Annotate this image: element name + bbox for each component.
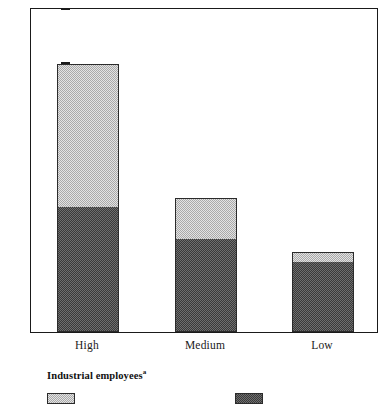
bar-segment-dark xyxy=(57,207,119,332)
legend-swatch-light xyxy=(47,393,75,404)
bar-high xyxy=(57,64,119,332)
bar-low xyxy=(292,252,354,332)
legend-title-superscript: a xyxy=(143,368,147,376)
legend-title: Industrial employeesa xyxy=(47,368,146,381)
plot-area: 300 250 200 150 100 50 0 xyxy=(30,8,378,333)
x-axis-label-low: Low xyxy=(262,337,382,353)
y-tick-mark xyxy=(61,8,70,9)
bar-medium xyxy=(175,198,237,332)
legend-title-text: Industrial employees xyxy=(47,370,143,381)
x-axis-label-medium: Medium xyxy=(145,337,265,353)
bar-segment-dark xyxy=(175,239,237,332)
legend-swatch-dark xyxy=(235,393,263,404)
bar-segment-dark xyxy=(292,262,354,332)
bar-segment-light xyxy=(175,198,237,239)
x-axis-label-high: High xyxy=(27,337,147,353)
bar-segment-light xyxy=(57,64,119,207)
bar-segment-light xyxy=(292,252,354,262)
